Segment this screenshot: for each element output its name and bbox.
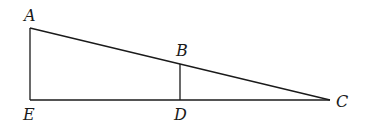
segments-group — [30, 28, 330, 100]
point-label-e: E — [22, 105, 35, 124]
point-label-b: B — [175, 41, 188, 60]
triangle-diagram: ABCDE — [0, 0, 365, 125]
point-label-c: C — [336, 92, 348, 111]
point-label-d: D — [173, 105, 187, 124]
point-label-a: A — [22, 6, 36, 25]
diagram-canvas: ABCDE — [0, 0, 365, 125]
